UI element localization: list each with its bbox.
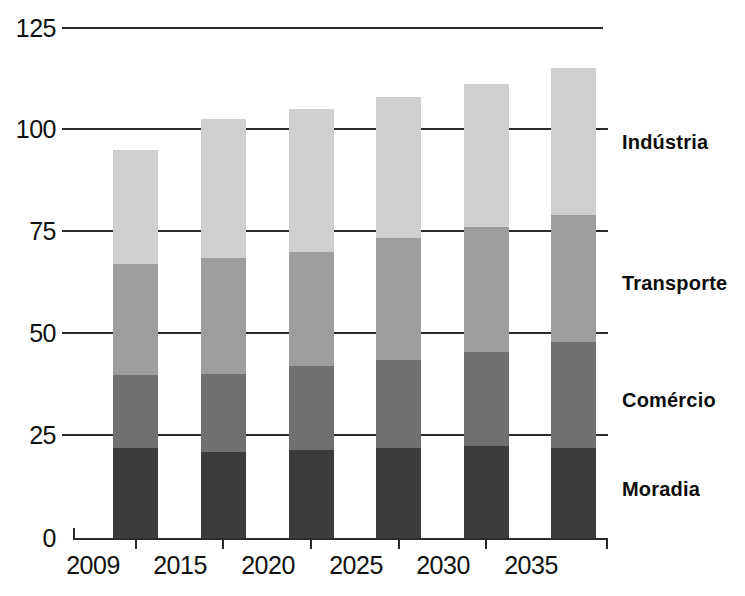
bar-segment-industria-2009[interactable]	[113, 150, 158, 264]
bar-segment-transporte-2009[interactable]	[113, 264, 158, 374]
bar-segment-transporte-2015[interactable]	[201, 258, 246, 375]
bar-segment-transporte-2020[interactable]	[289, 252, 334, 366]
legend-item-moradia: Moradia	[622, 478, 700, 501]
bar-column-2030[interactable]	[464, 84, 509, 538]
x-tick-2035	[606, 538, 608, 549]
bar-column-2025[interactable]	[376, 97, 421, 538]
x-tick-2020	[310, 538, 312, 549]
bar-segment-industria-2030[interactable]	[464, 84, 509, 227]
bar-segment-moradia-2015[interactable]	[201, 452, 246, 538]
bar-segment-industria-2035[interactable]	[551, 68, 596, 215]
bar-segment-moradia-2025[interactable]	[376, 448, 421, 538]
bar-segment-moradia-2009[interactable]	[113, 448, 158, 538]
y-tick-label-0: 0	[0, 524, 56, 553]
plot-area: 125 100 75 50 25 0 2009	[0, 0, 745, 596]
x-tick-2030	[485, 538, 487, 549]
bar-column-2020[interactable]	[289, 109, 334, 538]
bar-segment-comercio-2035[interactable]	[551, 342, 596, 448]
bar-column-2015[interactable]	[201, 119, 246, 538]
bar-segment-transporte-2030[interactable]	[464, 227, 509, 352]
bar-segment-industria-2020[interactable]	[289, 109, 334, 252]
bar-segment-comercio-2020[interactable]	[289, 366, 334, 450]
y-tick-label-50: 50	[0, 319, 56, 348]
legend-item-transporte: Transporte	[622, 272, 727, 295]
bar-segment-moradia-2030[interactable]	[464, 446, 509, 538]
bar-segment-moradia-2020[interactable]	[289, 450, 334, 538]
gridline-125	[73, 27, 603, 29]
bar-segment-transporte-2025[interactable]	[376, 238, 421, 361]
bar-column-2009[interactable]	[113, 150, 158, 538]
y-tick-label-75: 75	[0, 217, 56, 246]
bar-column-2035[interactable]	[551, 68, 596, 538]
y-tick-label-25: 25	[0, 421, 56, 450]
stacked-bar-chart: 125 100 75 50 25 0 2009	[0, 0, 745, 596]
x-tick-2025	[398, 538, 400, 549]
x-tick-2009	[135, 538, 137, 549]
bar-segment-industria-2025[interactable]	[376, 97, 421, 238]
legend-item-industria: Indústria	[622, 131, 708, 154]
bar-segment-moradia-2035[interactable]	[551, 448, 596, 538]
x-tick-2015	[222, 538, 224, 549]
y-tick-label-125: 125	[0, 14, 56, 43]
bar-segment-industria-2015[interactable]	[201, 119, 246, 258]
gridline-100	[73, 128, 608, 130]
legend-item-comercio: Comércio	[622, 389, 716, 412]
bar-segment-comercio-2009[interactable]	[113, 375, 158, 449]
x-axis-label-2035: 2035	[476, 551, 586, 580]
bar-segment-comercio-2030[interactable]	[464, 352, 509, 446]
y-tick-label-100: 100	[0, 115, 56, 144]
bar-segment-comercio-2015[interactable]	[201, 374, 246, 452]
bar-segment-transporte-2035[interactable]	[551, 215, 596, 342]
bar-segment-comercio-2025[interactable]	[376, 360, 421, 448]
x-axis-line	[73, 538, 608, 540]
